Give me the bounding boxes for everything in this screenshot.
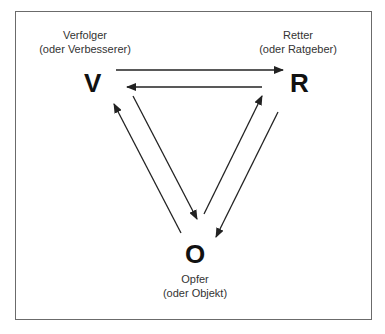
arrow-r-to-o <box>216 112 278 237</box>
arrow-o-to-r <box>204 96 262 214</box>
arrow-v-to-o <box>133 96 197 219</box>
arrows-layer <box>0 0 385 334</box>
